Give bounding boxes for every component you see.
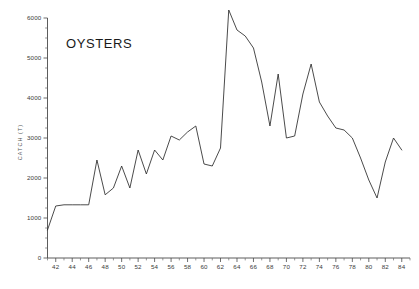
- x-tick-label: 60: [200, 263, 208, 270]
- x-tick-label: 52: [134, 263, 142, 270]
- x-tick-label: 74: [316, 263, 324, 270]
- y-axis-group: 0100020003000400050006000: [27, 14, 48, 261]
- x-axis-group: 4244464850525456586062646668707274767880…: [48, 258, 411, 270]
- y-tick-label: 3000: [27, 134, 42, 141]
- x-tick-label: 68: [266, 263, 274, 270]
- x-tick-label: 42: [52, 263, 60, 270]
- x-tick-label: 48: [102, 263, 110, 270]
- y-axis-tick-labels: 0100020003000400050006000: [27, 14, 42, 261]
- x-tick-label: 62: [217, 263, 225, 270]
- y-axis-ticks: [44, 18, 48, 258]
- x-tick-label: 64: [233, 263, 241, 270]
- x-tick-label: 80: [365, 263, 373, 270]
- x-tick-label: 66: [250, 263, 258, 270]
- chart-title: OYSTERS: [66, 36, 132, 51]
- x-tick-label: 58: [184, 263, 192, 270]
- x-tick-label: 76: [332, 263, 340, 270]
- x-axis-ticks: [48, 258, 411, 262]
- x-tick-label: 46: [85, 263, 93, 270]
- x-tick-label: 44: [69, 263, 77, 270]
- y-tick-label: 5000: [27, 54, 42, 61]
- x-tick-label: 84: [398, 263, 406, 270]
- x-tick-label: 82: [382, 263, 390, 270]
- x-tick-label: 70: [283, 263, 291, 270]
- x-axis-tick-labels: 4244464850525456586062646668707274767880…: [52, 263, 406, 270]
- y-tick-label: 0: [38, 254, 42, 261]
- x-tick-label: 54: [151, 263, 159, 270]
- x-tick-label: 56: [167, 263, 175, 270]
- x-tick-label: 50: [118, 263, 126, 270]
- y-tick-label: 2000: [27, 174, 42, 181]
- y-tick-label: 1000: [27, 214, 42, 221]
- x-tick-label: 78: [349, 263, 357, 270]
- y-tick-label: 6000: [27, 14, 42, 21]
- y-tick-label: 4000: [27, 94, 42, 101]
- y-axis-title: CATCH (T): [17, 124, 23, 160]
- oysters-line-chart: 0100020003000400050006000 42444648505254…: [0, 0, 419, 289]
- x-tick-label: 72: [299, 263, 307, 270]
- chart-container: 0100020003000400050006000 42444648505254…: [0, 0, 419, 289]
